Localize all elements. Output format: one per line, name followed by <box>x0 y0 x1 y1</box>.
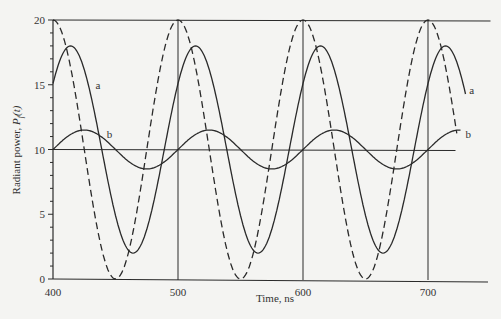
y-tick-label: 10 <box>34 144 46 156</box>
curve-label-a: a <box>469 84 474 96</box>
curves <box>53 20 466 279</box>
x-axis-title: Time, ns <box>256 292 294 304</box>
reference-line-y10 <box>53 150 456 151</box>
curve-label-b: b <box>107 128 113 140</box>
radiant-power-chart: 05101520400500600700 aabb Time, ns Radia… <box>0 0 501 319</box>
x-tick-label: 400 <box>45 286 62 298</box>
x-axis-line <box>53 279 488 282</box>
x-tick-label: 600 <box>295 286 312 298</box>
x-tick-label: 500 <box>170 286 187 298</box>
y-axis-title: Radiant power, Pf(t) <box>10 105 25 194</box>
curve-label-a: a <box>96 79 101 91</box>
y-tick-label: 20 <box>34 14 46 26</box>
y-tick-label: 5 <box>40 208 46 220</box>
curve-label-b: b <box>466 128 472 140</box>
y-tick-label: 0 <box>40 273 46 285</box>
reference-lines <box>53 20 491 280</box>
y-tick-label: 15 <box>34 79 46 91</box>
x-tick-label: 700 <box>420 286 437 298</box>
axes: 05101520400500600700 <box>34 14 488 298</box>
